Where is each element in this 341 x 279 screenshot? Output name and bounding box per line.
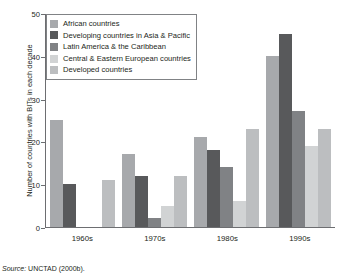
legend-item-label: Central & Eastern European countries: [63, 55, 191, 63]
y-axis-tick: [41, 57, 45, 58]
y-axis-tick: [41, 142, 45, 143]
x-axis-labels: 1960s1970s1980s1990s: [46, 234, 336, 243]
bar: [63, 184, 76, 227]
bar: [194, 137, 207, 227]
bar: [161, 206, 174, 227]
y-axis-title: Number of countries with BITs in each de…: [25, 16, 34, 226]
chart-legend: African countriesDeveloping countries in…: [46, 14, 197, 80]
bar-group-1980s: [191, 14, 263, 227]
bar: [318, 129, 331, 227]
bar-slot: [318, 14, 331, 227]
legend-item-label: African countries: [63, 20, 120, 28]
legend-item: African countries: [50, 18, 191, 30]
bar-group-1990s: [263, 14, 335, 227]
bar: [50, 120, 63, 227]
bar-slot: [233, 14, 246, 227]
legend-swatch-icon: [50, 66, 58, 74]
legend-swatch-icon: [50, 43, 58, 51]
legend-item: Developing countries in Asia & Pacific: [50, 30, 191, 42]
bar: [148, 218, 161, 227]
bar: [266, 56, 279, 227]
legend-item: Latin America & the Caribbean: [50, 41, 191, 53]
y-axis-tick-label: 50: [32, 10, 40, 19]
bar: [279, 34, 292, 227]
legend-item: Developed countries: [50, 64, 191, 76]
x-axis-line: [45, 227, 335, 228]
y-axis-tick-label: 10: [32, 181, 40, 190]
bar-slot: [246, 14, 259, 227]
bar: [207, 150, 220, 227]
bar-slot: [292, 14, 305, 227]
bar: [233, 201, 246, 227]
bar-chart-figure: Number of countries with BITs in each de…: [0, 0, 341, 279]
y-axis-tick-label: 20: [32, 138, 40, 147]
y-axis-tick: [41, 14, 45, 15]
x-axis-tick-label: 1990s: [264, 234, 337, 243]
bar: [292, 111, 305, 227]
bar: [135, 176, 148, 227]
x-axis-tick-label: 1980s: [191, 234, 264, 243]
y-axis-tick: [41, 228, 45, 229]
bar: [174, 176, 187, 227]
source-value: UNCTAD (2000b).: [28, 265, 85, 272]
bar: [305, 146, 318, 227]
legend-item-label: Latin America & the Caribbean: [63, 43, 166, 51]
legend-item-label: Developed countries: [63, 66, 132, 74]
legend-item-label: Developing countries in Asia & Pacific: [63, 32, 190, 40]
legend-item: Central & Eastern European countries: [50, 53, 191, 65]
y-axis-tick-label: 0: [36, 224, 40, 233]
source-note: Source: UNCTAD (2000b).: [2, 265, 85, 272]
bar-slot: [207, 14, 220, 227]
bar-slot: [266, 14, 279, 227]
bar-slot: [279, 14, 292, 227]
bar-slot: [305, 14, 318, 227]
bar: [246, 129, 259, 227]
legend-swatch-icon: [50, 20, 58, 28]
legend-swatch-icon: [50, 55, 58, 63]
bar: [220, 167, 233, 227]
bar: [102, 180, 115, 227]
x-axis-tick-label: 1970s: [119, 234, 192, 243]
bar-slot: [220, 14, 233, 227]
y-axis-tick: [41, 100, 45, 101]
legend-swatch-icon: [50, 31, 58, 39]
y-axis-tick: [41, 185, 45, 186]
bar: [122, 154, 135, 227]
source-label: Source:: [2, 265, 26, 272]
y-axis-tick-label: 40: [32, 52, 40, 61]
x-axis-tick-label: 1960s: [46, 234, 119, 243]
y-axis-tick-label: 30: [32, 95, 40, 104]
